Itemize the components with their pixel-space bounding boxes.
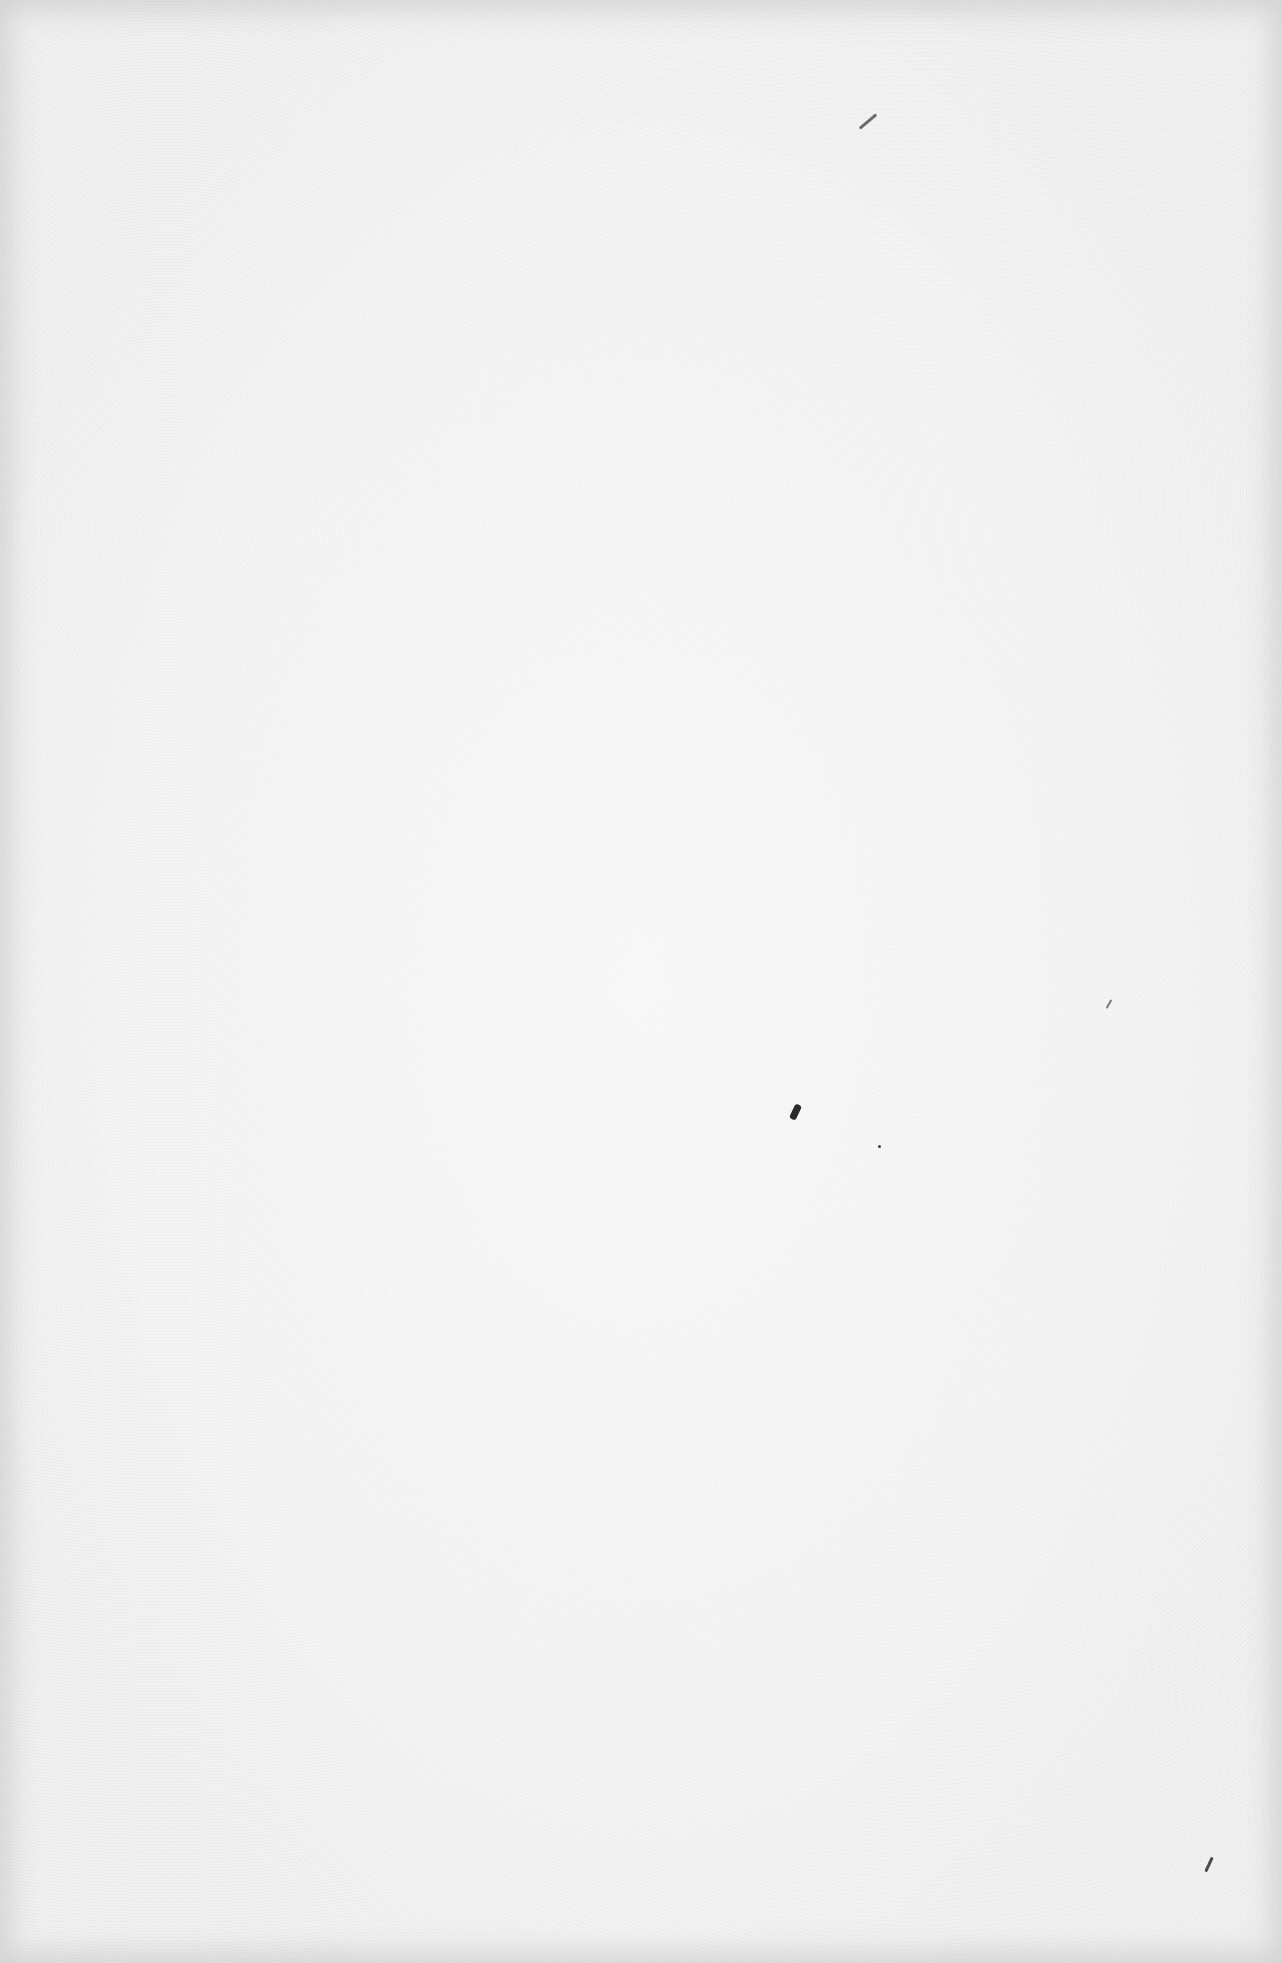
speck-right-mid-stroke	[1106, 999, 1113, 1009]
blank-scanned-page	[0, 0, 1282, 1963]
speck-bottom-right-stroke	[1204, 1857, 1213, 1873]
speck-center-comma	[789, 1103, 802, 1120]
speck-center-dot	[878, 1145, 881, 1148]
speck-top-right-stroke	[859, 113, 878, 129]
